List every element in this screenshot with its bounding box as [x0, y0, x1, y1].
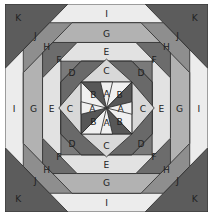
piece-label-c: C — [103, 65, 109, 76]
piece-label-a: A — [89, 102, 96, 113]
piece-label-a: A — [103, 88, 110, 99]
piece-label-b: B — [117, 116, 123, 127]
piece-label-f: F — [56, 151, 61, 162]
piece-label-i: I — [105, 8, 108, 19]
piece-label-b: B — [117, 89, 123, 100]
piece-label-h: H — [163, 164, 170, 175]
piece-label-h: H — [163, 41, 170, 52]
piece-label-c: C — [67, 102, 73, 113]
piece-label-e: E — [158, 102, 164, 113]
piece-label-k: K — [192, 12, 199, 23]
piece-label-c: C — [140, 102, 146, 113]
piece-label-g: G — [30, 102, 37, 113]
piece-label-d: D — [137, 67, 144, 78]
piece-label-g: G — [176, 102, 183, 113]
piece-label-f: F — [56, 54, 61, 65]
piece-label-e: E — [104, 46, 110, 57]
piece-label-c: C — [103, 140, 109, 151]
piece-label-i: I — [13, 102, 16, 113]
piece-label-j: J — [33, 30, 37, 41]
piece-label-j: J — [33, 175, 37, 186]
piece-label-e: E — [104, 159, 110, 170]
piece-label-f: F — [152, 54, 157, 65]
piece-label-i: I — [105, 197, 108, 208]
piece-label-b: B — [90, 89, 96, 100]
piece-label-e: E — [49, 102, 55, 113]
piece-label-k: K — [15, 193, 22, 204]
quilt-block-svg: IIIIGGGGEEEECCCCAAAABBBBDDDDFFFFHHHHJJJJ… — [5, 4, 208, 212]
piece-label-i: I — [198, 102, 201, 113]
piece-label-d: D — [68, 67, 75, 78]
piece-label-g: G — [103, 28, 110, 39]
piece-label-h: H — [43, 164, 50, 175]
piece-label-d: D — [137, 138, 144, 149]
piece-label-a: A — [103, 117, 110, 128]
piece-label-g: G — [103, 177, 110, 188]
piece-label-d: D — [68, 138, 75, 149]
piece-label-k: K — [15, 12, 22, 23]
piece-label-h: H — [43, 41, 50, 52]
piece-label-j: J — [175, 30, 179, 41]
quilt-block-diagram: IIIIGGGGEEEECCCCAAAABBBBDDDDFFFFHHHHJJJJ… — [5, 4, 208, 212]
piece-label-j: J — [175, 175, 179, 186]
piece-label-b: B — [90, 116, 96, 127]
piece-label-f: F — [152, 151, 157, 162]
piece-label-a: A — [118, 102, 125, 113]
piece-label-k: K — [192, 193, 199, 204]
